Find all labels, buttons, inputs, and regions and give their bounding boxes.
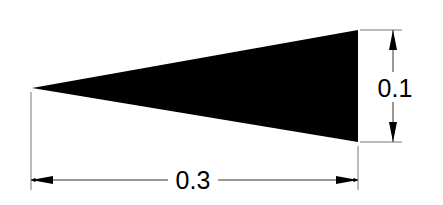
- length-dimension-label: 0.3: [176, 166, 211, 194]
- wedge-drawing: 0.3 0.1: [0, 0, 443, 205]
- down-arrow-icon: [389, 122, 397, 142]
- height-dimension-label: 0.1: [378, 74, 413, 102]
- left-arrow-icon: [31, 176, 53, 184]
- wedge-triangle: [32, 30, 358, 142]
- up-arrow-icon: [389, 30, 397, 50]
- right-arrow-icon: [336, 176, 358, 184]
